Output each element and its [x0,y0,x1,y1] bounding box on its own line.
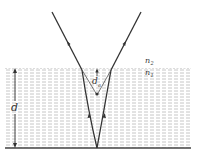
apparent-depth-subscript: a [98,82,101,88]
arrow-icon [123,41,127,46]
real-depth-label: d [11,101,18,114]
upper-medium-label: n [145,56,150,65]
apparent-image-point [95,92,98,95]
lower-medium-region [5,68,191,148]
upper-medium-subscript: 2 [150,60,154,66]
arrow-icon [67,41,71,46]
lower-medium-label: n [145,68,150,77]
lower-medium-subscript: 1 [151,72,154,78]
refraction-diagram: d d a n 2 n 1 [0,0,197,160]
rays-in-upper-medium [52,12,141,70]
